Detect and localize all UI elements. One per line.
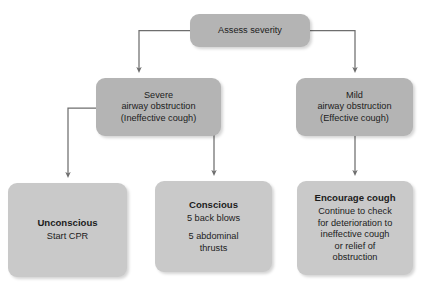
node-assess-severity-line-1: Assess severity bbox=[218, 25, 282, 37]
node-encourage-cough-line-2: for deterioration to bbox=[318, 218, 393, 230]
node-mild-airway-obstruction[interactable]: Mild airway obstruction (Effective cough… bbox=[296, 78, 413, 136]
node-conscious-line-2: 5 abdominal bbox=[188, 231, 238, 243]
node-unconscious-line-1: Start CPR bbox=[47, 231, 88, 243]
node-encourage-cough-line-4: or relief of bbox=[335, 241, 376, 253]
edge-severe-to-unconscious bbox=[68, 108, 96, 175]
edge-assess-to-mild bbox=[310, 31, 355, 71]
node-mild-line-2: airway obstruction bbox=[317, 101, 391, 113]
node-mild-line-1: Mild bbox=[346, 90, 363, 102]
node-conscious[interactable]: Conscious 5 back blows 5 abdominal thrus… bbox=[155, 181, 272, 272]
node-severe-line-3: (Ineffective cough) bbox=[121, 113, 196, 125]
node-severe-line-2: airway obstruction bbox=[121, 101, 195, 113]
node-conscious-line-1: 5 back blows bbox=[187, 213, 240, 225]
node-unconscious[interactable]: Unconscious Start CPR bbox=[8, 183, 127, 277]
node-encourage-cough-line-3: ineffective cough bbox=[321, 229, 390, 241]
node-conscious-heading: Conscious bbox=[189, 199, 238, 211]
node-assess-severity[interactable]: Assess severity bbox=[190, 14, 310, 47]
node-unconscious-heading: Unconscious bbox=[37, 217, 97, 229]
node-encourage-cough[interactable]: Encourage cough Continue to check for de… bbox=[297, 181, 413, 275]
node-encourage-cough-line-5: obstruction bbox=[333, 252, 378, 264]
node-conscious-line-3: thrusts bbox=[200, 243, 228, 255]
node-encourage-cough-line-1: Continue to check bbox=[318, 206, 392, 218]
node-severe-line-1: Severe bbox=[144, 90, 173, 102]
node-mild-line-3: (Effective cough) bbox=[320, 113, 389, 125]
node-encourage-cough-heading: Encourage cough bbox=[314, 192, 395, 204]
flowchart-canvas: Assess severity Severe airway obstructio… bbox=[0, 0, 422, 283]
edge-assess-to-severe bbox=[139, 31, 190, 71]
node-severe-airway-obstruction[interactable]: Severe airway obstruction (Ineffective c… bbox=[96, 78, 221, 136]
